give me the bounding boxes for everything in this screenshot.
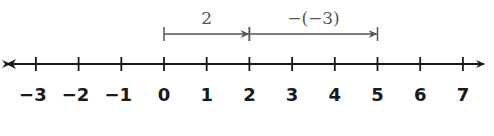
tick-label: 7: [457, 84, 470, 105]
tick-label: 4: [329, 84, 342, 105]
jump-arrows: 2−(−3): [164, 8, 378, 41]
jump-label: −(−3): [287, 8, 340, 28]
tick-label: −2: [62, 84, 90, 105]
jump-arrow: −(−3): [249, 8, 377, 41]
tick-label: 2: [243, 84, 256, 105]
tick-label: −1: [104, 84, 132, 105]
jump-label: 2: [201, 8, 212, 28]
number-line-diagram: −3−2−101234567 2−(−3): [0, 0, 494, 136]
tick-labels: −3−2−101234567: [19, 84, 469, 105]
tick-label: 1: [200, 84, 213, 105]
jump-arrow: 2: [164, 8, 249, 41]
tick-label: 3: [286, 84, 299, 105]
tick-label: 0: [158, 84, 171, 105]
tick-label: 6: [414, 84, 427, 105]
tick-label: 5: [371, 84, 384, 105]
tick-label: −3: [19, 84, 47, 105]
